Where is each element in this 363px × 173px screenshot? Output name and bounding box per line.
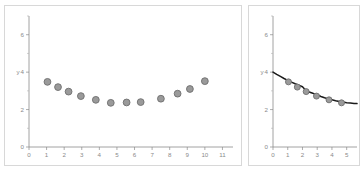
x-tick-label: 2 [62, 151, 66, 158]
x-tick-label: 5 [345, 151, 349, 158]
x-tick-label: 10 [201, 151, 208, 158]
x-tick-label: 8 [168, 151, 172, 158]
data-point-marker[interactable] [174, 90, 181, 97]
x-tick-label: 9 [186, 151, 190, 158]
data-point-marker[interactable] [77, 93, 84, 100]
x-tick-label: 6 [133, 151, 137, 158]
axes-group: 0123450246y [260, 16, 357, 158]
x-tick-label: 5 [115, 151, 119, 158]
data-point-marker[interactable] [44, 78, 51, 85]
x-tick-label: 11 [219, 151, 226, 158]
x-tick-label: 3 [315, 151, 319, 158]
data-point-marker[interactable] [107, 99, 114, 106]
y-tick-label: 6 [265, 31, 269, 38]
chart-panel-left[interactable]: 012345678910110246y [4, 5, 242, 166]
x-tick-label: 4 [330, 151, 334, 158]
x-tick-label: 4 [98, 151, 102, 158]
chart-panel-right[interactable]: 0123450246y [248, 5, 360, 166]
data-point-marker[interactable] [294, 84, 300, 90]
data-point-marker[interactable] [303, 89, 309, 95]
y-tick-label: 0 [21, 143, 25, 150]
y-tick-label: 0 [265, 143, 269, 150]
data-point-marker[interactable] [285, 79, 291, 85]
data-point-marker[interactable] [187, 86, 194, 93]
right-scatter-plot: 0123450246y [249, 6, 359, 165]
x-tick-label: 1 [286, 151, 290, 158]
data-point-marker[interactable] [158, 95, 165, 102]
data-point-marker[interactable] [65, 88, 72, 95]
x-tick-label: 2 [301, 151, 305, 158]
data-point-marker[interactable] [137, 99, 144, 106]
data-point-marker[interactable] [123, 99, 130, 106]
data-point-marker[interactable] [326, 97, 332, 103]
axes-group: 012345678910110246y [16, 16, 233, 158]
x-tick-label: 1 [45, 151, 49, 158]
y-tick-label: 4 [21, 68, 25, 75]
data-point-marker[interactable] [313, 93, 319, 99]
y-tick-label: 2 [265, 106, 269, 113]
y-tick-label: 4 [265, 68, 269, 75]
data-point-marker[interactable] [92, 96, 99, 103]
data-point-marker[interactable] [55, 84, 62, 91]
data-point-marker[interactable] [339, 100, 345, 106]
figure-container: 012345678910110246y 0123450246y [0, 0, 363, 173]
x-tick-label: 7 [150, 151, 154, 158]
left-scatter-plot: 012345678910110246y [5, 6, 241, 165]
x-tick-label: 0 [271, 151, 275, 158]
data-points-group [44, 78, 208, 107]
x-tick-label: 0 [27, 151, 31, 158]
y-tick-label: 2 [21, 106, 25, 113]
y-tick-label: 6 [21, 31, 25, 38]
x-tick-label: 3 [80, 151, 84, 158]
data-point-marker[interactable] [201, 78, 208, 85]
